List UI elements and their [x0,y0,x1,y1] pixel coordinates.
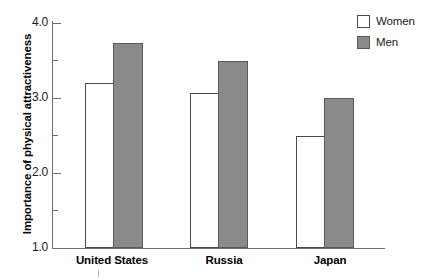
legend-label-men: Men [376,36,398,48]
plot-area [53,23,385,248]
y-tick-label-2-0: 2.0 [4,165,48,179]
scan-artifact [98,270,99,277]
x-axis-label-japan: Japan [270,254,390,266]
bar-women-united-states [85,83,114,248]
legend-swatch-men-icon [357,36,370,49]
y-axis-title: Importance of physical attractiveness [21,10,33,258]
legend-item-women: Women [357,12,415,30]
legend-label-women: Women [376,15,415,27]
x-axis-label-united-states: United States [50,254,174,266]
x-axis-label-russia: Russia [163,254,285,266]
bar-women-japan [296,136,325,249]
legend-item-men: Men [357,33,415,51]
bar-men-japan [324,98,354,248]
bar-chart: Importance of physical attractiveness 4.… [0,0,423,280]
bar-men-russia [218,61,248,249]
legend-swatch-women-icon [357,15,370,28]
y-tick-label-4-0: 4.0 [4,15,48,29]
bar-men-united-states [113,43,143,248]
y-tick-label-3-0: 3.0 [4,90,48,104]
y-tick-label-1-0: 1.0 [4,240,48,254]
legend: Women Men [357,12,415,54]
bar-women-russia [190,93,219,248]
